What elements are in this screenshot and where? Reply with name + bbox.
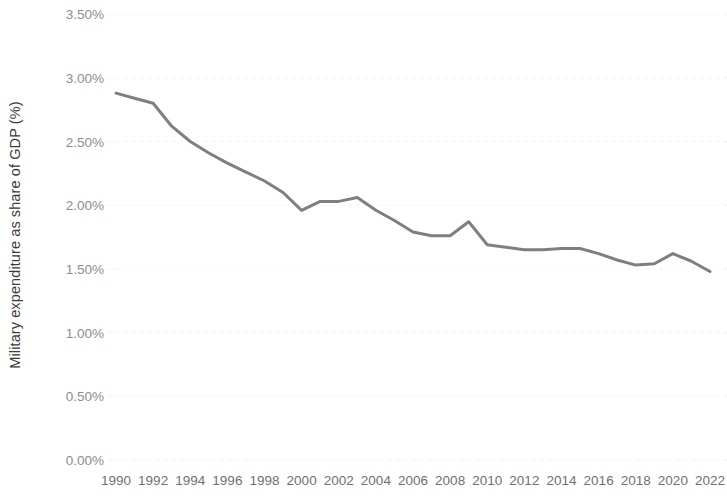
y-axis-tick-label: 1.00% <box>42 325 104 340</box>
y-axis-tick-label: 0.50% <box>42 389 104 404</box>
x-axis-tick-label: 1996 <box>212 473 242 488</box>
x-axis-tick-labels: 1990199219941996199820002002200420062008… <box>0 470 727 498</box>
x-axis-tick-label: 2008 <box>435 473 465 488</box>
y-axis-tick-label: 2.50% <box>42 134 104 149</box>
x-axis-tick-label: 1998 <box>249 473 279 488</box>
x-axis-tick-label: 2004 <box>361 473 391 488</box>
y-axis-tick-label: 3.00% <box>42 70 104 85</box>
y-axis-tick-label: 1.50% <box>42 261 104 276</box>
x-axis-tick-label: 2020 <box>658 473 688 488</box>
line-chart-svg <box>108 0 727 470</box>
y-axis-title: Military expenditure as share of GDP (%) <box>0 0 30 470</box>
x-axis-tick-label: 1990 <box>101 473 131 488</box>
x-axis-tick-label: 1994 <box>175 473 205 488</box>
chart-container: Military expenditure as share of GDP (%)… <box>0 0 727 498</box>
x-axis-tick-label: 2002 <box>324 473 354 488</box>
y-axis-tick-label: 0.00% <box>42 453 104 468</box>
x-axis-tick-label: 1992 <box>138 473 168 488</box>
x-axis-tick-label: 2010 <box>472 473 502 488</box>
x-axis-tick-label: 2018 <box>621 473 651 488</box>
x-axis-tick-label: 2006 <box>398 473 428 488</box>
y-axis-tick-labels: 3.50%3.00%2.50%2.00%1.50%1.00%0.50%0.00% <box>36 0 104 498</box>
x-axis-tick-label: 2016 <box>584 473 614 488</box>
y-axis-tick-label: 3.50% <box>42 7 104 22</box>
x-axis-tick-label: 2012 <box>509 473 539 488</box>
x-axis-tick-label: 2014 <box>546 473 576 488</box>
plot-area <box>108 0 727 470</box>
gridlines <box>108 14 727 460</box>
y-axis-title-label: Military expenditure as share of GDP (%) <box>7 101 23 368</box>
x-axis-tick-label: 2022 <box>695 473 725 488</box>
data-series-line <box>116 93 710 271</box>
x-axis-tick-label: 2000 <box>287 473 317 488</box>
y-axis-tick-label: 2.00% <box>42 198 104 213</box>
